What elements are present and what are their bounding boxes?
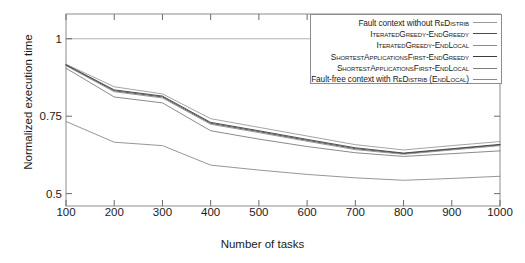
chart-figure: 0.50.751 1002003004005006007008009001000… — [0, 0, 525, 263]
x-tick-label: 1000 — [487, 206, 513, 218]
legend-swatch-icon — [473, 56, 497, 57]
x-tick-label: 400 — [201, 206, 220, 218]
legend-item-label: Fault-free context with ReDistrib (EndLo… — [311, 74, 469, 84]
legend-item: Fault-free context with ReDistrib (EndLo… — [313, 74, 497, 85]
x-axis-tick-labels: 1002003004005006007008009001000 — [0, 206, 525, 226]
x-tick-label: 300 — [153, 206, 172, 218]
legend-item-label: IteratedGreedy-EndGreedy — [370, 29, 469, 39]
x-tick-label: 900 — [442, 206, 461, 218]
legend-item-label: IteratedGreedy-EndLocal — [376, 40, 469, 50]
legend-item: ShortestApplicationsFirst-EndGreedy — [313, 51, 497, 62]
x-tick-label: 800 — [394, 206, 413, 218]
x-tick-label: 600 — [298, 206, 317, 218]
legend-swatch-icon — [473, 68, 497, 69]
legend-item-label: ShortestApplicationsFirst-EndLocal — [337, 63, 469, 73]
legend-item: Fault context without ReDistrib — [313, 17, 497, 28]
legend-swatch-icon — [473, 79, 497, 80]
legend-item-label: Fault context without ReDistrib — [358, 18, 469, 28]
y-axis-title: Normalized execution time — [22, 12, 34, 192]
legend-item-label: ShortestApplicationsFirst-EndGreedy — [331, 52, 469, 62]
x-tick-label: 700 — [346, 206, 365, 218]
legend-swatch-icon — [473, 45, 497, 46]
legend-swatch-icon — [473, 22, 497, 23]
legend-item: IteratedGreedy-EndGreedy — [313, 28, 497, 39]
legend: Fault context without ReDistribIteratedG… — [310, 14, 502, 84]
x-tick-label: 200 — [105, 206, 124, 218]
legend-item: IteratedGreedy-EndLocal — [313, 40, 497, 51]
legend-item: ShortestApplicationsFirst-EndLocal — [313, 63, 497, 74]
x-tick-label: 500 — [249, 206, 268, 218]
x-axis-title: Number of tasks — [0, 238, 525, 250]
x-tick-label: 100 — [56, 206, 75, 218]
legend-swatch-icon — [473, 33, 497, 34]
